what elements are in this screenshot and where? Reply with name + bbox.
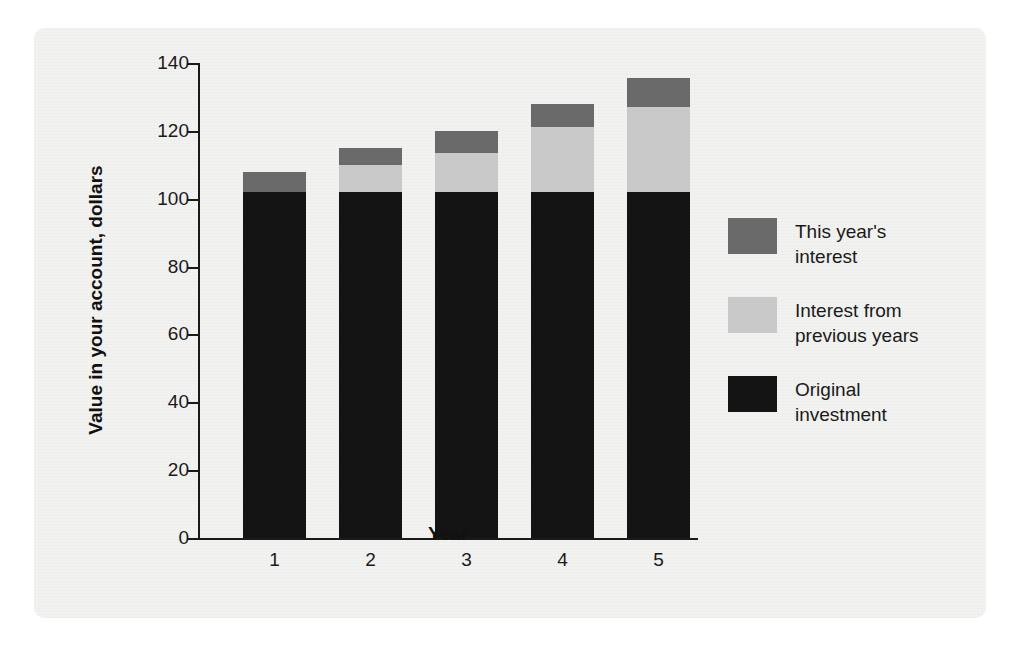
legend-swatch-this-year-interest <box>728 218 777 254</box>
y-axis-line <box>198 63 200 538</box>
legend-swatch-previous-interest <box>728 297 777 333</box>
bar-segment-original-investment <box>435 192 498 538</box>
x-tick-label-1: 1 <box>243 549 306 571</box>
y-tick-label: 80 <box>168 256 189 278</box>
bar-year-1[interactable] <box>243 172 306 538</box>
x-axis-title: Year <box>428 523 468 545</box>
legend-label-line-2: previous years <box>795 323 919 348</box>
bar-segment-previous-interest <box>435 153 498 192</box>
chart-page: Value in your account, dollars 140 120 1… <box>0 0 1022 650</box>
plot-area: 140 120 100 80 60 40 20 0 <box>198 63 698 538</box>
legend-item-this-year-interest[interactable]: This year's interest <box>728 218 958 269</box>
y-tick-label: 140 <box>157 52 189 74</box>
legend-swatch-original-investment <box>728 376 777 412</box>
legend-label-original-investment: Original investment <box>795 376 887 427</box>
bar-segment-original-investment <box>243 192 306 538</box>
x-tick-label-5: 5 <box>627 549 690 571</box>
bar-year-4[interactable] <box>531 104 594 538</box>
legend-item-previous-interest[interactable]: Interest from previous years <box>728 297 958 348</box>
bar-segment-this-year-interest <box>627 78 690 107</box>
y-tick-label: 20 <box>168 459 189 481</box>
bar-segment-previous-interest <box>531 127 594 191</box>
legend-label-previous-interest: Interest from previous years <box>795 297 919 348</box>
y-tick-label: 60 <box>168 323 189 345</box>
legend-item-original-investment[interactable]: Original investment <box>728 376 958 427</box>
y-axis-title: Value in your account, dollars <box>85 165 107 434</box>
bar-segment-original-investment <box>627 192 690 538</box>
legend-label-line-2: investment <box>795 402 887 427</box>
bar-segment-this-year-interest <box>243 172 306 192</box>
bar-segment-this-year-interest <box>339 148 402 165</box>
y-tick-label: 120 <box>157 120 189 142</box>
legend-label-this-year-interest: This year's interest <box>795 218 886 269</box>
legend-label-line-1: This year's <box>795 219 886 244</box>
chart-legend: This year's interest Interest from previ… <box>728 218 958 455</box>
y-tick-label: 100 <box>157 188 189 210</box>
y-tick-label: 40 <box>168 391 189 413</box>
bar-segment-previous-interest <box>339 165 402 192</box>
bar-year-5[interactable] <box>627 78 690 538</box>
x-tick-label-4: 4 <box>531 549 594 571</box>
bar-segment-original-investment <box>339 192 402 538</box>
bar-segment-previous-interest <box>627 107 690 192</box>
legend-label-line-1: Interest from <box>795 298 919 323</box>
y-tick-label: 0 <box>178 527 189 549</box>
bar-year-3[interactable] <box>435 131 498 538</box>
bar-segment-original-investment <box>531 192 594 538</box>
bar-segment-this-year-interest <box>531 104 594 128</box>
bar-segment-this-year-interest <box>435 131 498 153</box>
legend-label-line-1: Original <box>795 377 887 402</box>
legend-label-line-2: interest <box>795 244 886 269</box>
x-tick-label-2: 2 <box>339 549 402 571</box>
x-tick-label-3: 3 <box>435 549 498 571</box>
bar-year-2[interactable] <box>339 148 402 538</box>
